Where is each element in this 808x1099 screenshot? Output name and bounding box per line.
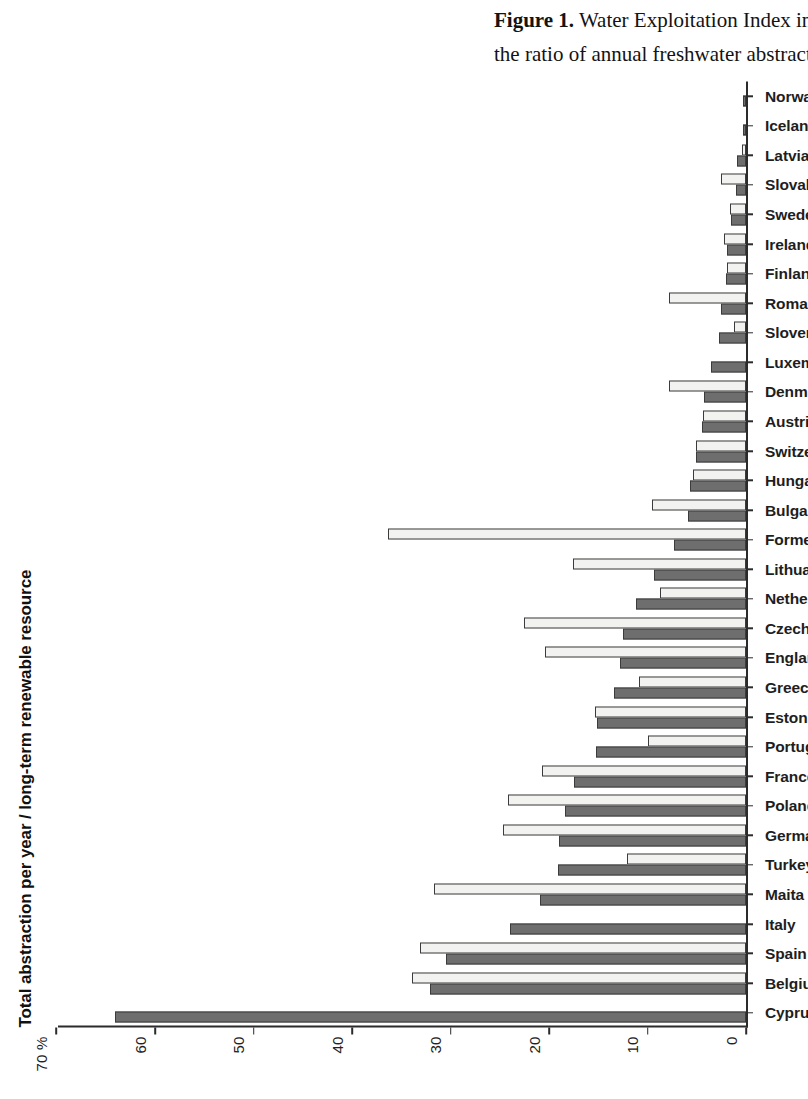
value-axis-tick-label: 30 bbox=[427, 1027, 444, 1053]
bar-series-1 bbox=[446, 953, 746, 964]
category-axis-tick-mark bbox=[746, 893, 753, 895]
bar-series-2 bbox=[503, 824, 746, 835]
value-axis-tick-mark bbox=[450, 1027, 452, 1034]
category-axis-tick-mark bbox=[746, 923, 753, 925]
value-axis-tick-label: 50 bbox=[230, 1027, 247, 1053]
value-axis-tick-mark bbox=[548, 1027, 550, 1034]
category-axis-tick-mark bbox=[746, 982, 753, 984]
caption-line-1: Figure 1. Water Exploitation Index in E bbox=[494, 8, 808, 33]
category-axis-tick-mark bbox=[746, 952, 753, 954]
value-axis-tick-label: 20 bbox=[525, 1027, 542, 1053]
caption-line-1-text: Water Exploitation Index in E bbox=[574, 8, 808, 32]
value-axis-tick-mark bbox=[647, 1027, 649, 1034]
bar-group bbox=[58, 909, 746, 939]
category-label: Italy bbox=[765, 915, 796, 933]
bar-group bbox=[58, 938, 746, 968]
value-axis-tick-label: 40 bbox=[328, 1027, 345, 1053]
caption-line-2: the ratio of annual freshwater abstracti… bbox=[494, 42, 808, 67]
bar-series-1 bbox=[115, 1011, 746, 1022]
caption-figure-label: Figure 1. bbox=[494, 8, 574, 32]
category-axis-tick-mark bbox=[746, 864, 753, 866]
bar-group bbox=[58, 850, 746, 880]
category-label: Turkey bbox=[765, 855, 808, 873]
category-label: Cyprus bbox=[765, 1003, 808, 1021]
bar-series-2 bbox=[412, 972, 746, 983]
bar-group bbox=[58, 968, 746, 998]
value-axis-tick-mark bbox=[253, 1027, 255, 1034]
bar-group bbox=[58, 879, 746, 909]
value-axis-tick-label: 0 bbox=[723, 1027, 740, 1045]
bar-series-2 bbox=[627, 853, 746, 864]
value-axis-tick-mark bbox=[351, 1027, 353, 1034]
bar-series-1 bbox=[510, 923, 746, 934]
category-axis-tick-mark bbox=[746, 1011, 753, 1013]
bar-group bbox=[58, 820, 746, 850]
bar-series-2 bbox=[434, 883, 747, 894]
value-axis-tick-label: 10 bbox=[624, 1027, 641, 1053]
category-label: Spain bbox=[765, 944, 807, 962]
category-label: Maita bbox=[765, 885, 804, 903]
figure-caption: Figure 1. Water Exploitation Index in E … bbox=[480, 0, 808, 808]
bar-series-1 bbox=[430, 983, 747, 994]
value-axis-title: Total abstraction per year / long-term r… bbox=[16, 81, 36, 1027]
bar-group bbox=[58, 997, 746, 1027]
value-axis-tick-label: 70 % bbox=[33, 1027, 50, 1071]
category-label: Belgium bbox=[765, 974, 808, 992]
bar-series-1 bbox=[559, 835, 747, 846]
bar-series-2 bbox=[420, 942, 747, 953]
category-label: Germany bbox=[765, 826, 808, 844]
value-axis-tick-mark bbox=[154, 1027, 156, 1034]
category-axis-tick-mark bbox=[746, 834, 753, 836]
bar-series-1 bbox=[558, 864, 747, 875]
value-axis-tick-mark bbox=[56, 1027, 58, 1034]
figure-root: Total abstraction per year / long-term r… bbox=[0, 0, 808, 1099]
value-axis-tick-label: 60 bbox=[131, 1027, 148, 1053]
value-axis-tick-mark bbox=[746, 1027, 748, 1034]
bar-series-1 bbox=[540, 894, 747, 905]
